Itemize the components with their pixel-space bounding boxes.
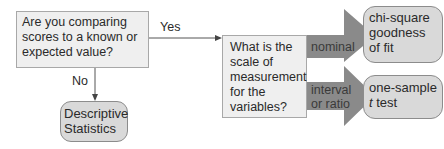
start-question-box: Are you comparing scores to a known or e…: [16, 11, 149, 68]
interval-label-line1: interval: [311, 83, 351, 97]
test-text: test: [373, 95, 398, 110]
descriptive-statistics-line1: Descriptive: [64, 106, 124, 121]
one-sample-line2: t test: [369, 95, 437, 110]
one-sample-t-test-result-box: one-sample t test: [363, 75, 443, 119]
one-sample-line1: one-sample: [369, 80, 437, 95]
chi-square-line3: of fit: [369, 40, 437, 55]
scale-question-text: What is the scale of measurement for the…: [230, 40, 306, 114]
descriptive-statistics-line2: Statistics: [64, 121, 124, 136]
interval-label: interval or ratio: [311, 83, 351, 111]
chi-square-line1: chi-square: [369, 10, 437, 25]
no-label: No: [72, 74, 88, 88]
chi-square-result-box: chi-square goodness of fit: [363, 6, 443, 63]
descriptive-statistics-box: Descriptive Statistics: [60, 101, 128, 142]
chi-square-line2: goodness: [369, 25, 437, 40]
start-question-text: Are you comparing scores to a known or e…: [22, 15, 137, 59]
no-arrowhead-icon: [92, 94, 98, 101]
yes-arrowhead-icon: [215, 35, 222, 41]
nominal-label: nominal: [311, 40, 355, 54]
interval-label-line2: or ratio: [311, 97, 351, 111]
yes-label: Yes: [160, 20, 180, 34]
scale-question-box: What is the scale of measurement for the…: [222, 35, 307, 118]
